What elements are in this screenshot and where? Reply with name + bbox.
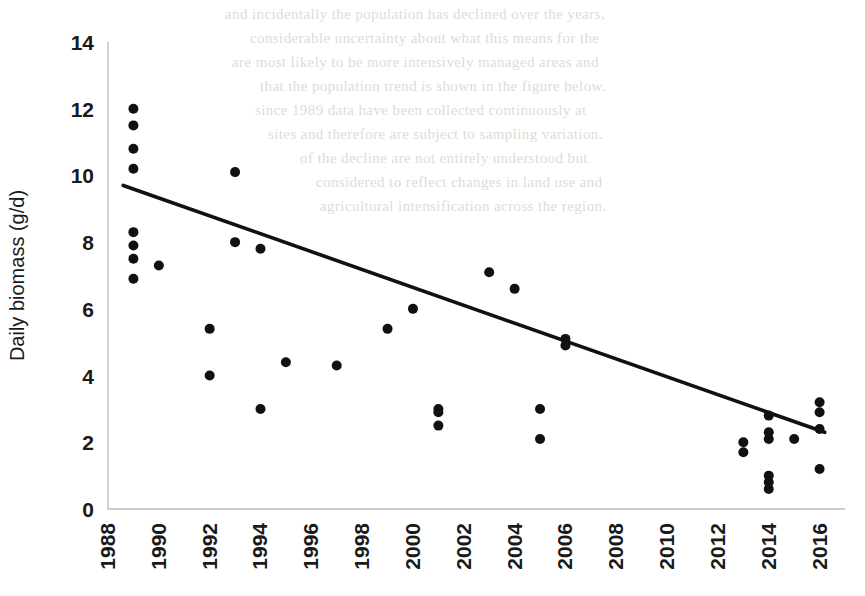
x-tick-label: 2010 [655,523,678,570]
y-tick-label: 12 [71,98,94,121]
y-tick-label: 6 [82,298,94,321]
data-points [128,104,824,494]
y-tick-label: 2 [82,431,94,454]
y-tick-label: 0 [82,498,94,521]
scatter-point [815,464,825,474]
x-tick-label: 1990 [147,523,170,570]
scatter-point [128,254,138,264]
chart-figure: 02468101214 1988199019921994199619982000… [0,0,865,596]
scatter-point [205,324,215,334]
scatter-point [789,434,799,444]
y-tick-label: 8 [82,231,94,254]
y-axis-title: Daily biomass (g/d) [6,190,28,361]
axis-lines [108,42,845,509]
scatter-plot-svg: 02468101214 1988199019921994199619982000… [0,0,865,596]
trend-line [123,185,824,432]
scatter-point [433,421,443,431]
scatter-point [128,104,138,114]
x-tick-label: 2000 [401,523,424,570]
scatter-point [484,267,494,277]
scatter-point [205,371,215,381]
scatter-point [383,324,393,334]
x-tick-label: 2012 [706,523,729,570]
linear-trend-line [123,185,824,432]
scatter-point [128,120,138,130]
scatter-point [764,434,774,444]
y-axis-tick-labels: 02468101214 [71,31,95,521]
y-tick-label: 10 [71,164,94,187]
y-tick-label: 14 [71,31,95,54]
scatter-point [230,167,240,177]
scatter-point [230,237,240,247]
x-tick-label: 1998 [350,523,373,570]
scatter-point [738,437,748,447]
scatter-point [128,164,138,174]
scatter-point [281,357,291,367]
scatter-point [128,227,138,237]
x-tick-label: 2014 [757,523,780,570]
x-tick-label: 2002 [452,523,475,570]
x-tick-label: 2006 [553,523,576,570]
x-tick-label: 2008 [604,523,627,570]
axes [108,42,845,509]
scatter-point [535,434,545,444]
scatter-point [510,284,520,294]
scatter-point [332,361,342,371]
scatter-point [154,260,164,270]
scatter-point [408,304,418,314]
x-tick-label: 1988 [96,523,119,570]
x-tick-label: 1992 [198,523,221,570]
scatter-point [255,244,265,254]
x-axis-tick-labels: 1988199019921994199619982000200220042006… [96,523,831,570]
scatter-point [255,404,265,414]
scatter-point [128,144,138,154]
scatter-point [815,397,825,407]
x-tick-label: 2004 [503,523,526,570]
y-tick-label: 4 [82,365,94,388]
x-tick-label: 1994 [248,523,271,570]
scatter-point [433,407,443,417]
scatter-point [535,404,545,414]
x-tick-label: 1996 [299,523,322,570]
scatter-point [738,447,748,457]
scatter-point [128,240,138,250]
scatter-point [764,484,774,494]
scatter-point [128,274,138,284]
x-tick-label: 2016 [808,523,831,570]
scatter-point [815,407,825,417]
